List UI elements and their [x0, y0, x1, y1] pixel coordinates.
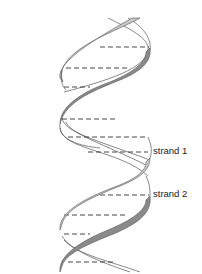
- strand-2-label: strand 2: [153, 189, 187, 199]
- strand-1-label: strand 1: [153, 146, 187, 156]
- dna-helix-diagram: [0, 0, 202, 274]
- strand-ribbon-light-upper: [60, 18, 140, 82]
- strand-ribbon-dark-upper: [60, 48, 150, 124]
